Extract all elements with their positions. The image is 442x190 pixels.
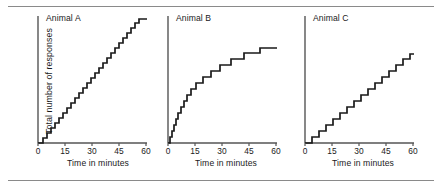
panel-animal-b: Animal B 0 15 30 45 60 Time in minutes bbox=[160, 10, 292, 178]
plot-area-animal-c bbox=[297, 10, 429, 155]
x-tick-label-45: 45 bbox=[241, 146, 257, 156]
bottom-divider-rule bbox=[8, 180, 434, 181]
panel-title-animal-a: Animal A bbox=[46, 13, 81, 23]
x-axis-label-animal-a: Time in minutes bbox=[32, 158, 164, 168]
x-tick-label-15: 15 bbox=[324, 146, 340, 156]
panel-title-animal-c: Animal C bbox=[313, 13, 349, 23]
x-tick-label-60: 60 bbox=[138, 146, 154, 156]
x-tick-label-60: 60 bbox=[405, 146, 421, 156]
x-tick-label-15: 15 bbox=[57, 146, 73, 156]
x-tick-label-30: 30 bbox=[351, 146, 367, 156]
cumulative-record-curve bbox=[168, 48, 277, 143]
x-tick-label-30: 30 bbox=[214, 146, 230, 156]
x-tick-label-45: 45 bbox=[378, 146, 394, 156]
panel-animal-c: Animal C 0 15 30 45 60 Time in minutes bbox=[297, 10, 429, 178]
x-tick-label-15: 15 bbox=[187, 146, 203, 156]
x-tick-label-60: 60 bbox=[268, 146, 284, 156]
cumulative-record-curve bbox=[305, 54, 414, 143]
x-tick-label-30: 30 bbox=[84, 146, 100, 156]
cumulative-record-curve bbox=[38, 19, 147, 143]
panel-title-animal-b: Animal B bbox=[176, 13, 211, 23]
plot-area-animal-b bbox=[160, 10, 292, 155]
x-tick-label-0: 0 bbox=[297, 146, 313, 156]
cumulative-response-figure: Total number of responses Animal A 0 15 … bbox=[0, 0, 442, 190]
x-tick-label-0: 0 bbox=[160, 146, 176, 156]
top-divider-rule bbox=[8, 6, 434, 7]
x-tick-label-45: 45 bbox=[111, 146, 127, 156]
x-axis-label-animal-c: Time in minutes bbox=[297, 158, 429, 168]
x-tick-label-0: 0 bbox=[30, 146, 46, 156]
x-axis-label-animal-b: Time in minutes bbox=[160, 158, 292, 168]
plot-area-animal-a bbox=[30, 10, 162, 155]
panel-animal-a: Total number of responses Animal A 0 15 … bbox=[30, 10, 162, 178]
